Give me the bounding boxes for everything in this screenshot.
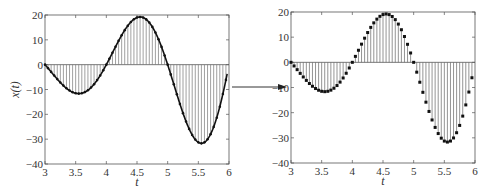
sample-point — [81, 92, 84, 95]
sample-point — [139, 16, 142, 19]
x-tick-label: 5 — [411, 165, 417, 177]
sample-point — [366, 31, 369, 34]
sample-point — [71, 91, 74, 94]
sample-point — [145, 18, 148, 21]
sample-point — [372, 21, 375, 24]
sample-point — [90, 86, 93, 89]
sample-point — [440, 137, 443, 140]
y-tick-label: 20 — [278, 6, 290, 18]
sample-point — [87, 89, 90, 92]
sample-point — [345, 72, 348, 75]
sample-point — [415, 71, 418, 74]
sample-point — [176, 93, 179, 96]
continuous-plot: 33.544.555.5620100−10−20−30−40tx(t) — [8, 9, 232, 189]
x-tick-label: 3 — [42, 166, 48, 178]
sample-point — [428, 110, 431, 113]
sample-point — [127, 24, 130, 27]
sample-point — [96, 79, 99, 82]
x-tick-label: 6 — [226, 166, 232, 178]
sample-point — [59, 81, 62, 84]
sample-point — [194, 138, 197, 141]
sample-point — [458, 124, 461, 127]
sample-point — [166, 63, 169, 66]
x-tick-label: 5.5 — [191, 166, 205, 178]
sample-point — [424, 101, 427, 104]
sample-point — [117, 40, 120, 43]
sample-point — [470, 76, 473, 79]
sample-point — [114, 45, 117, 48]
sample-point — [68, 89, 71, 92]
sample-point — [351, 61, 354, 64]
sample-point — [348, 66, 351, 69]
sample-point — [203, 141, 206, 144]
sample-point — [326, 90, 329, 93]
sampled-plot: 33.544.555.5620100−10−20−30−40t — [272, 6, 478, 188]
sample-point — [130, 21, 133, 24]
sample-point — [409, 51, 412, 54]
figure: 33.544.555.5620100−10−20−30−40tx(t) 33.5… — [0, 0, 483, 195]
sample-point — [437, 132, 440, 135]
sample-point — [452, 136, 455, 139]
sample-point — [449, 140, 452, 143]
sample-point — [188, 128, 191, 131]
sample-point — [354, 55, 357, 58]
sample-point — [222, 93, 225, 96]
sample-point — [142, 16, 145, 19]
sample-point — [296, 68, 299, 71]
sample-point — [363, 37, 366, 40]
sample-point — [412, 61, 415, 64]
sample-point — [53, 74, 56, 77]
sample-point — [332, 87, 335, 90]
sample-point — [418, 81, 421, 84]
y-tick-label: −10 — [26, 84, 44, 96]
y-tick-label: 10 — [32, 34, 44, 46]
sample-point — [336, 84, 339, 87]
sample-point — [148, 21, 151, 24]
y-tick-label: 20 — [32, 9, 44, 21]
sample-point — [179, 103, 182, 106]
sample-point — [154, 31, 157, 34]
sample-point — [320, 90, 323, 93]
sample-point — [406, 43, 409, 46]
sample-point — [385, 12, 388, 15]
x-tick-label: 3.5 — [315, 165, 329, 177]
x-tick-label: 3.5 — [69, 166, 83, 178]
sample-point — [50, 71, 53, 74]
sample-point — [111, 51, 114, 54]
sample-point — [219, 105, 222, 108]
sample-point — [99, 74, 102, 77]
sample-point — [421, 91, 424, 94]
x-tick-label: 5 — [165, 166, 171, 178]
sample-point — [157, 38, 160, 41]
y-tick-label: −20 — [272, 107, 290, 119]
sample-point — [461, 115, 464, 118]
sample-point — [209, 133, 212, 136]
y-tick-label: −20 — [26, 108, 44, 120]
sample-point — [293, 64, 296, 67]
sample-point — [443, 140, 446, 143]
sample-point — [467, 91, 470, 94]
sample-point — [308, 82, 311, 85]
y-tick-label: −40 — [26, 158, 44, 170]
sample-point — [317, 89, 320, 92]
sampling-arrow — [232, 84, 287, 90]
sample-point — [65, 87, 68, 90]
sample-point — [394, 18, 397, 21]
sample-point — [434, 126, 437, 129]
sample-point — [133, 18, 136, 21]
sample-point — [182, 112, 185, 115]
sample-point — [360, 43, 363, 46]
sample-point — [397, 23, 400, 26]
sample-point — [74, 92, 77, 95]
y-tick-label: −40 — [272, 157, 290, 169]
sample-point — [215, 116, 218, 119]
sample-point — [299, 72, 302, 75]
sample-point — [173, 83, 176, 86]
y-axis-label: x(t) — [8, 81, 22, 99]
sample-point — [56, 78, 59, 81]
sample-point — [160, 46, 163, 49]
sample-point — [400, 28, 403, 31]
x-tick-label: 5.5 — [437, 165, 451, 177]
sample-point — [191, 134, 194, 137]
sample-point — [169, 73, 172, 76]
